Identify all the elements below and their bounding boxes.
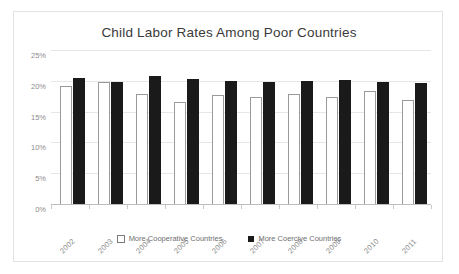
chart-title: Child Labor Rates Among Poor Countries [14,25,444,40]
x-tick [431,205,432,209]
bar-cooperative-2008[interactable] [288,94,300,205]
bar-cooperative-2009[interactable] [326,97,338,205]
x-tick [317,205,318,209]
bar-coercive-2006[interactable] [225,81,237,205]
bar-coercive-2011[interactable] [415,83,427,205]
legend-label: More Cooperative Countries [129,234,223,243]
x-tick [51,205,52,209]
bar-cooperative-2005[interactable] [174,102,186,205]
bar-coercive-2010[interactable] [377,82,389,205]
chart-card: Child Labor Rates Among Poor Countries 0… [13,11,443,262]
bar-group [326,51,351,205]
legend-label: More Coercive Countries [258,234,341,243]
bar-coercive-2002[interactable] [73,78,85,206]
x-tick [165,205,166,209]
bar-group [60,51,85,205]
bar-coercive-2003[interactable] [111,82,123,205]
bar-group [98,51,123,205]
x-axis-line [51,204,431,205]
bar-cooperative-2003[interactable] [98,82,110,205]
x-tick [355,205,356,209]
chart-legend: More Cooperative CountriesMore Coercive … [14,234,444,243]
bar-group [364,51,389,205]
bar-cooperative-2004[interactable] [136,94,148,205]
legend-item-cooperative[interactable]: More Cooperative Countries [117,234,223,243]
bar-coercive-2005[interactable] [187,79,199,205]
bar-group [212,51,237,205]
bar-cooperative-2006[interactable] [212,95,224,205]
bar-coercive-2007[interactable] [263,82,275,205]
bar-group [402,51,427,205]
hollow-square-icon [117,235,125,243]
bar-cooperative-2011[interactable] [402,100,414,205]
bar-coercive-2004[interactable] [149,76,161,205]
bar-coercive-2008[interactable] [301,81,313,205]
legend-item-coercive[interactable]: More Coercive Countries [248,234,341,243]
x-tick [241,205,242,209]
x-tick [393,205,394,209]
x-tick [89,205,90,209]
x-tick [127,205,128,209]
bar-group [174,51,199,205]
bar-group [288,51,313,205]
bar-cooperative-2010[interactable] [364,91,376,205]
bar-cooperative-2007[interactable] [250,97,262,205]
bar-group [136,51,161,205]
x-tick [203,205,204,209]
bar-group [250,51,275,205]
x-tick [279,205,280,209]
bar-cooperative-2002[interactable] [60,86,72,205]
bar-coercive-2009[interactable] [339,80,351,205]
filled-square-icon [248,236,254,242]
plot-area: 0%5%10%15%20%25% 20022003200420052006200… [51,51,431,205]
